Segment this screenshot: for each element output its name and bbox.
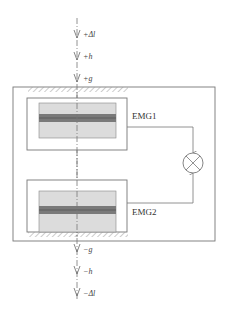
label-minus-delta-l: −Δl	[83, 289, 96, 298]
label-minus-g: −g⃗	[83, 245, 99, 254]
label-plus-delta-l: +Δl	[83, 30, 96, 39]
bottom-mount-hatch	[28, 232, 128, 237]
label-minus-h: −h⃗	[83, 267, 99, 276]
top-arrows: +Δl +h⃗ +g⃗	[74, 30, 99, 83]
label-plus-g: +g⃗	[83, 74, 99, 83]
label-plus-h: +h⃗	[83, 52, 99, 61]
gradiometer-diagram: +Δl +h⃗ +g⃗ EMG1 EMG2 −g⃗ −h	[0, 0, 228, 315]
label-emg2: EMG2	[132, 207, 157, 217]
label-emg1: EMG1	[132, 111, 157, 121]
top-mount-hatch	[28, 87, 128, 92]
sensor-emg2: EMG2	[27, 180, 157, 232]
mixer-circle-cross-icon	[183, 153, 203, 173]
bottom-arrows: −g⃗ −h⃗ −Δl	[74, 244, 99, 298]
sensor-emg1: EMG1	[27, 98, 157, 150]
signal-line-emg1	[127, 127, 193, 153]
signal-line-emg2	[127, 173, 193, 203]
